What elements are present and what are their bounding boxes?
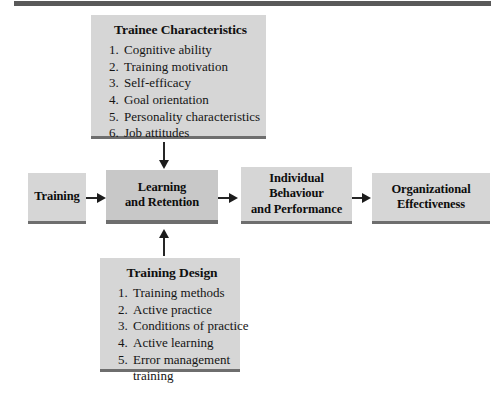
trainee-characteristics-list: Cognitive ability Training motivation Se… [105, 42, 260, 142]
list-item: Goal orientation [122, 92, 260, 109]
diagram-canvas: Trainee Characteristics Cognitive abilit… [0, 0, 498, 399]
arrow-up-icon [159, 229, 169, 238]
organizational-label-line-1: Organizational [391, 182, 470, 197]
arrow-right-icon [229, 193, 238, 203]
training-label-line-1: Training [34, 189, 80, 204]
organizational-label-line-2: Effectiveness [397, 197, 465, 212]
connector-design-to-learning-line [163, 238, 165, 256]
learning-label-line-1: Learning [138, 180, 187, 195]
list-item: Active practice [131, 302, 249, 319]
list-item-text: Error management [133, 352, 230, 367]
list-item: Error management training [131, 352, 249, 385]
box-trainee-characteristics: Trainee Characteristics Cognitive abilit… [91, 15, 266, 139]
list-item: Self-efficacy [122, 75, 260, 92]
list-item: Active learning [131, 335, 249, 352]
list-item: Training methods [131, 285, 249, 302]
list-item: Training motivation [122, 59, 260, 76]
connector-trainee-to-learning-line [163, 142, 165, 162]
top-divider-rule [14, 1, 491, 6]
box-organizational-effectiveness: Organizational Effectiveness [372, 173, 490, 224]
list-item-continuation: training [133, 368, 249, 385]
box-training: Training [28, 173, 86, 224]
individual-label-line-2: Behaviour [269, 186, 324, 201]
list-item: Personality characteristics [122, 109, 260, 126]
list-item: Conditions of practice [131, 318, 249, 335]
list-item: Cognitive ability [122, 42, 260, 59]
training-design-title: Training Design [114, 265, 230, 281]
box-training-design: Training Design Training methods Active … [100, 258, 240, 372]
box-individual-behaviour-and-performance: Individual Behaviour and Performance [241, 167, 352, 224]
box-learning-and-retention: Learning and Retention [106, 170, 218, 224]
arrow-down-icon [159, 160, 169, 169]
arrow-right-icon [362, 193, 371, 203]
list-item: Job attitudes [122, 125, 260, 142]
trainee-characteristics-title: Trainee Characteristics [105, 22, 256, 38]
individual-label-line-1: Individual [269, 171, 324, 186]
individual-label-line-3: and Performance [251, 202, 342, 217]
training-design-list: Training methods Active practice Conditi… [114, 285, 249, 385]
learning-label-line-2: and Retention [125, 195, 199, 210]
arrow-right-icon [97, 193, 106, 203]
